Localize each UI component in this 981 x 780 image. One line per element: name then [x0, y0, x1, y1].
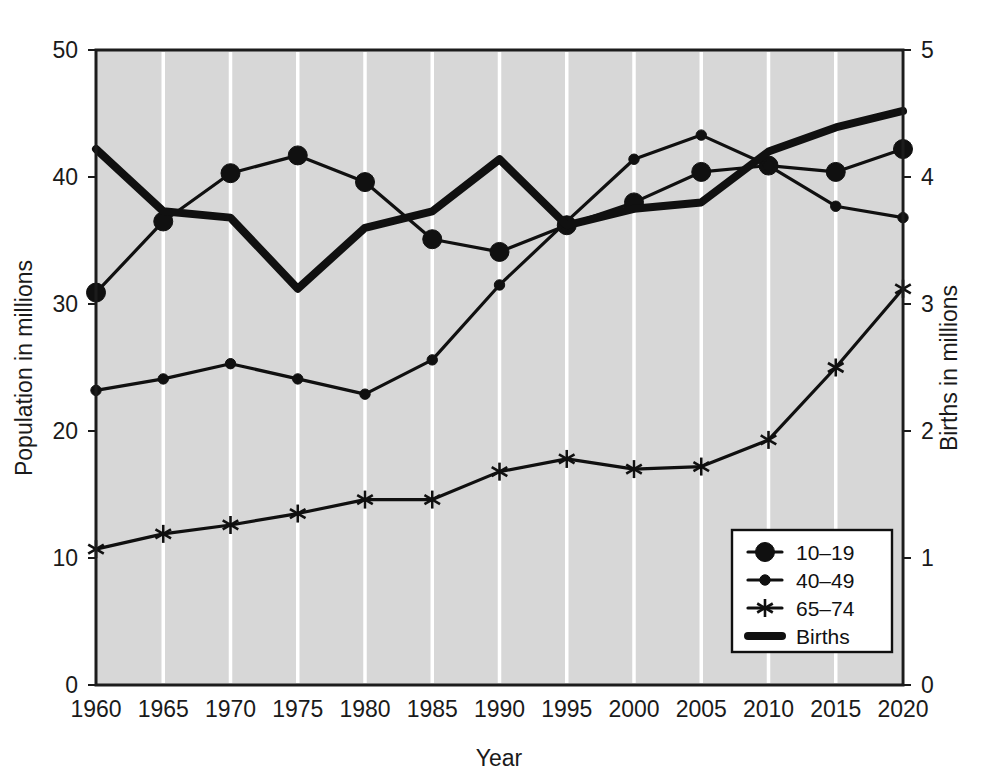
x-axis-title: Year — [476, 745, 523, 771]
x-tick-label-1995: 1995 — [541, 696, 592, 722]
legend-label-births: Births — [796, 625, 850, 648]
population-births-line-chart: 01020304050 012345 196019651970197519801… — [0, 0, 981, 780]
y2-tick-label-4: 4 — [921, 164, 934, 190]
y-tick-label-50: 50 — [52, 37, 78, 63]
point-10-19-1970 — [221, 164, 240, 183]
point-40-49-1980 — [360, 389, 370, 399]
x-tick-label-2005: 2005 — [676, 696, 727, 722]
legend-label-65-74: 65–74 — [796, 597, 855, 620]
point-10-19-2005 — [692, 162, 711, 181]
point-40-49-2000 — [629, 154, 639, 164]
point-40-49-2005 — [696, 130, 706, 140]
point-40-49-1990 — [494, 280, 504, 290]
chart-container: 01020304050 012345 196019651970197519801… — [0, 0, 981, 780]
point-40-49-1975 — [293, 374, 303, 384]
x-tick-label-2000: 2000 — [608, 696, 659, 722]
legend-label-10-19: 10–19 — [796, 541, 854, 564]
y2-tick-label-1: 1 — [921, 545, 934, 571]
point-40-49-1965 — [158, 374, 168, 384]
legend-label-40-49: 40–49 — [796, 569, 854, 592]
point-10-19-1990 — [490, 242, 509, 261]
y2-axis-title: Births in millions — [936, 285, 962, 451]
y-tick-label-20: 20 — [52, 418, 78, 444]
x-tick-label-2020: 2020 — [877, 696, 928, 722]
y-tick-label-30: 30 — [52, 291, 78, 317]
y2-tick-label-3: 3 — [921, 291, 934, 317]
point-40-49-1970 — [225, 358, 235, 368]
x-axis-tick-labels: 1960196519701975198019851990199520002005… — [70, 696, 928, 722]
x-tick-label-1965: 1965 — [138, 696, 189, 722]
point-40-49-1985 — [427, 355, 437, 365]
y2-tick-label-5: 5 — [921, 37, 934, 63]
y-axis-title: Population in millions — [11, 260, 37, 476]
y-tick-label-0: 0 — [65, 672, 78, 698]
y2-tick-label-2: 2 — [921, 418, 934, 444]
legend-marker-40-49 — [760, 575, 770, 585]
x-tick-label-1985: 1985 — [407, 696, 458, 722]
legend-item-10-19[interactable]: 10–19 — [748, 541, 854, 564]
x-tick-label-1980: 1980 — [339, 696, 390, 722]
point-10-19-1980 — [356, 173, 375, 192]
legend-marker-10-19 — [756, 543, 775, 562]
point-10-19-1985 — [423, 230, 442, 249]
y2-tick-label-0: 0 — [921, 672, 934, 698]
point-40-49-2015 — [831, 201, 841, 211]
x-tick-label-1990: 1990 — [474, 696, 525, 722]
y-tick-label-40: 40 — [52, 164, 78, 190]
x-tick-label-2015: 2015 — [810, 696, 861, 722]
x-tick-label-1970: 1970 — [205, 696, 256, 722]
x-tick-label-2010: 2010 — [743, 696, 794, 722]
chart-legend[interactable]: 10–1940–4965–74Births — [732, 530, 892, 652]
right-axis-tick-labels: 012345 — [921, 37, 934, 698]
x-tick-label-1975: 1975 — [272, 696, 323, 722]
y-tick-label-10: 10 — [52, 545, 78, 571]
point-10-19-2015 — [826, 162, 845, 181]
point-10-19-1975 — [288, 146, 307, 165]
point-40-49-2010 — [763, 160, 773, 170]
x-tick-label-1960: 1960 — [70, 696, 121, 722]
left-axis-tick-labels: 01020304050 — [52, 37, 78, 698]
legend-item-65-74[interactable]: 65–74 — [748, 597, 855, 620]
